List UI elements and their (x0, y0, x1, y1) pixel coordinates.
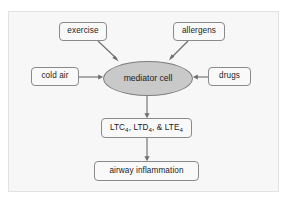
node-airway-inflammation[interactable]: airway inflammation (94, 161, 199, 181)
ltc-text: LTC (110, 123, 125, 132)
edge-drugs-to-mediator (193, 74, 208, 79)
node-cold-air[interactable]: cold air (31, 67, 79, 86)
node-exercise[interactable]: exercise (59, 22, 107, 41)
node-mediator-cell[interactable]: mediator cell (103, 61, 193, 96)
node-exercise-label: exercise (67, 27, 98, 35)
edge-allergens-to-mediator (169, 41, 188, 61)
node-cold-air-label: cold air (41, 72, 68, 80)
node-leukotrienes[interactable]: LTC4, LTD4, & LTE4 (101, 118, 192, 138)
lte-subscript: 4 (180, 125, 184, 132)
diagram-root: exercise allergens cold air drugs mediat… (0, 0, 291, 204)
node-drugs-label: drugs (219, 72, 240, 80)
node-allergens-label: allergens (182, 27, 216, 35)
lte-text: LTE (165, 123, 180, 132)
node-allergens[interactable]: allergens (173, 22, 225, 41)
node-airway-inflammation-label: airway inflammation (109, 167, 183, 175)
ltd-text: LTD (133, 123, 148, 132)
separator-2: , & (152, 123, 165, 132)
node-drugs[interactable]: drugs (208, 67, 251, 86)
node-leukotrienes-label: LTC4, LTD4, & LTE4 (110, 124, 183, 133)
node-mediator-cell-label: mediator cell (124, 74, 173, 83)
edge-leukotrienes-to-airway (144, 138, 149, 161)
edge-mediator-to-leukotrienes (144, 96, 149, 118)
edge-exercise-to-mediator (98, 41, 119, 62)
edge-cold-air-to-mediator (79, 74, 103, 79)
